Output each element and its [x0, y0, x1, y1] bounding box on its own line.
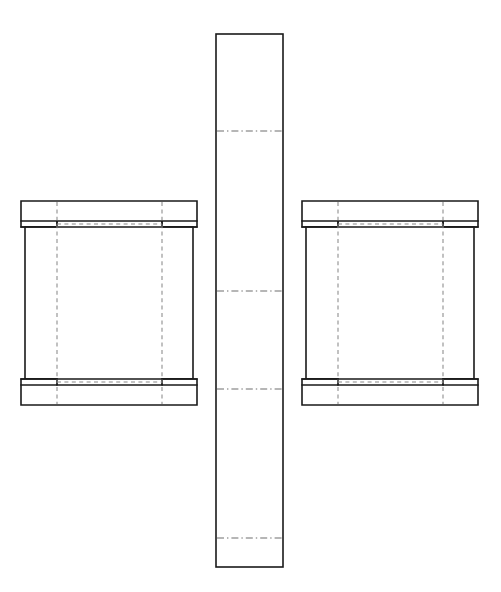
right-panel-group[interactable]: [302, 201, 478, 405]
center-strip-fill: [216, 34, 283, 567]
left-panel-body: [25, 227, 193, 379]
left-panel-top-flap: [21, 201, 197, 227]
dieline-drawing: [0, 0, 501, 592]
left-panel-bottom-flap: [21, 379, 197, 405]
dieline-canvas: [0, 0, 501, 592]
right-panel-bottom-flap: [302, 379, 478, 405]
right-panel-body: [306, 227, 474, 379]
left-panel-group[interactable]: [21, 201, 197, 405]
center-strip-group[interactable]: [216, 34, 283, 567]
right-panel-top-flap: [302, 201, 478, 227]
